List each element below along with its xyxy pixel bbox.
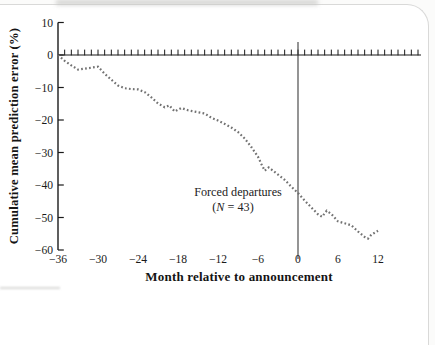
x-axis-title: Month relative to announcement — [60, 269, 418, 285]
annotation-line2: (N = 43) — [212, 200, 253, 214]
zero-line-group — [58, 50, 421, 56]
x-tick-label: −36 — [49, 253, 67, 266]
x-tick-label: 6 — [335, 253, 341, 266]
y-tick-label: −20 — [35, 114, 53, 127]
y-tick-label: −10 — [35, 82, 53, 95]
y-tick-label: −40 — [35, 179, 53, 192]
x-tick-label: −24 — [129, 253, 147, 266]
y-axis — [58, 23, 64, 251]
x-tick-labels: −36−30−24−18−12−60612 — [49, 253, 384, 266]
x-tick-label: −12 — [209, 253, 227, 266]
x-tick-label: 0 — [295, 253, 301, 266]
y-tick-label: 0 — [47, 49, 53, 62]
x-tick-label: 12 — [372, 253, 384, 266]
y-axis-title: Cumulative mean prediction error (%) — [7, 28, 22, 244]
x-tick-label: −30 — [89, 253, 107, 266]
y-tick-label: −50 — [35, 212, 53, 225]
y-tick-label: −30 — [35, 147, 53, 160]
y-tick-label: 10 — [41, 17, 53, 30]
y-tick-labels: 100−10−20−30−40−50−60 — [35, 17, 53, 258]
x-tick-label: −6 — [252, 253, 265, 266]
x-tick-label: −18 — [169, 253, 187, 266]
annotation-line1: Forced departures — [194, 185, 282, 199]
